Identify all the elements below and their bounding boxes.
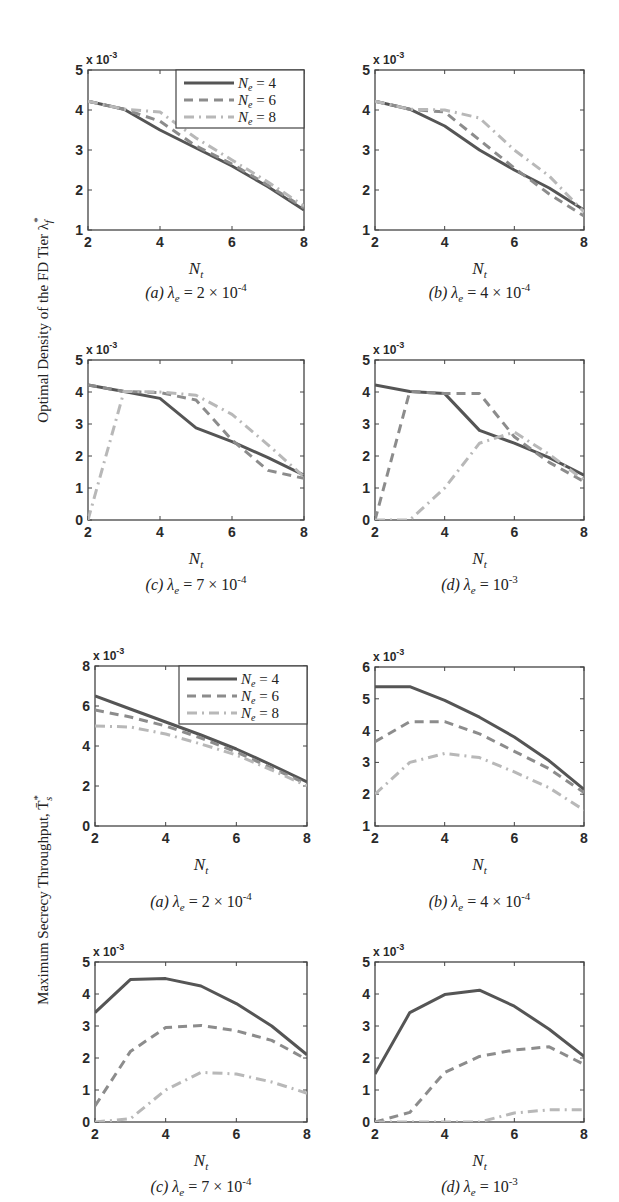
x-axis-label: Nt: [193, 855, 209, 876]
subplot-caption: (b) λe = 4 × 10-4: [429, 281, 531, 304]
x-tick-label: 6: [510, 1126, 518, 1142]
x-tick-label: 6: [228, 234, 236, 250]
y-tick-label: 2: [362, 1050, 370, 1066]
x-tick-label: 6: [510, 524, 518, 540]
x-axis-label: Nt: [188, 259, 204, 280]
y-tick-label: 3: [362, 754, 370, 770]
y-exponent-label: x 10-3: [373, 340, 404, 357]
y-tick-label: 4: [362, 384, 370, 400]
bottom-group-ylabel: Maximum Secrecy Throughput, T̄*s: [31, 795, 54, 1005]
y-tick-label: 2: [75, 182, 83, 198]
y-tick-label: 5: [362, 954, 370, 970]
subplot-bottom-c: 2468012345x 10-3Nt(c) λe = 7 × 10-4: [82, 942, 311, 1198]
x-tick-label: 4: [162, 830, 170, 846]
y-tick-label: 1: [362, 1082, 370, 1098]
y-exponent-label: x 10-3: [373, 647, 404, 664]
y-tick-label: 0: [362, 512, 370, 528]
y-tick-label: 3: [82, 1018, 90, 1034]
x-tick-label: 4: [441, 830, 449, 846]
x-tick-label: 8: [300, 524, 308, 540]
y-tick-label: 0: [362, 1114, 370, 1130]
x-axis-label: Nt: [471, 1151, 487, 1172]
x-tick-label: 6: [228, 524, 236, 540]
x-tick-label: 8: [580, 234, 588, 250]
x-tick-label: 8: [300, 234, 308, 250]
svg-text:Optimal Density of the FD Tier: Optimal Density of the FD Tier λ*f: [31, 217, 54, 422]
legend-label-ne4: Ne = 4: [237, 75, 276, 93]
x-axis-label: Nt: [188, 549, 204, 570]
y-exponent-label: x 10-3: [373, 942, 404, 959]
legend: Ne = 4Ne = 6Ne = 8: [176, 70, 304, 128]
subplot-caption: (c) λe = 7 × 10-4: [151, 1175, 252, 1198]
y-tick-label: 6: [82, 698, 90, 714]
x-tick-label: 4: [156, 524, 164, 540]
y-tick-label: 5: [75, 352, 83, 368]
y-tick-label: 5: [362, 691, 370, 707]
y-tick-label: 2: [362, 448, 370, 464]
svg-text:Maximum Secrecy Throughput, T̄: Maximum Secrecy Throughput, T̄*s: [31, 795, 54, 1005]
y-tick-label: 6: [362, 659, 370, 675]
subplot-caption: (a) λe = 2 × 10-4: [145, 281, 247, 304]
subplot-caption: (d) λe = 10-3: [441, 573, 518, 596]
x-tick-label: 2: [84, 524, 92, 540]
y-tick-label: 1: [362, 818, 370, 834]
x-tick-label: 6: [510, 830, 518, 846]
subplot-top-d: 2468012345x 10-3Nt(d) λe = 10-3: [362, 340, 588, 596]
top-group-ylabel: Optimal Density of the FD Tier λ*f: [31, 217, 54, 422]
subplot-top-a: 246812345x 10-3Ne = 4Ne = 6Ne = 8Nt(a) λ…: [75, 50, 308, 304]
y-tick-label: 4: [362, 102, 370, 118]
x-tick-label: 4: [441, 524, 449, 540]
y-tick-label: 3: [362, 416, 370, 432]
y-tick-label: 8: [82, 658, 90, 674]
y-tick-label: 3: [362, 142, 370, 158]
y-exponent-label: x 10-3: [93, 646, 124, 663]
y-tick-label: 1: [75, 222, 83, 238]
x-tick-label: 6: [232, 1126, 240, 1142]
x-axis-label: Nt: [471, 549, 487, 570]
y-tick-label: 5: [362, 352, 370, 368]
x-tick-label: 4: [441, 234, 449, 250]
y-tick-label: 1: [82, 1082, 90, 1098]
x-axis-label: Nt: [471, 259, 487, 280]
x-tick-label: 4: [441, 1126, 449, 1142]
legend-label-ne6: Ne = 6: [240, 688, 279, 706]
x-tick-label: 2: [371, 524, 379, 540]
x-tick-label: 8: [303, 1126, 311, 1142]
legend-label-ne8: Ne = 8: [240, 705, 279, 723]
y-tick-label: 1: [75, 480, 83, 496]
y-tick-label: 5: [362, 62, 370, 78]
subplot-top-b: 246812345x 10-3Nt(b) λe = 4 × 10-4: [362, 50, 588, 304]
y-tick-label: 4: [362, 986, 370, 1002]
axes-frame: [375, 360, 584, 520]
y-tick-label: 0: [75, 512, 83, 528]
x-tick-label: 8: [303, 830, 311, 846]
x-tick-label: 6: [510, 234, 518, 250]
x-tick-label: 8: [580, 830, 588, 846]
x-tick-label: 6: [232, 830, 240, 846]
figure-canvas: Optimal Density of the FD Tier λ*f Maxim…: [0, 0, 619, 1202]
y-exponent-label: x 10-3: [373, 50, 404, 67]
x-tick-label: 2: [371, 1126, 379, 1142]
x-tick-label: 8: [580, 1126, 588, 1142]
legend-label-ne4: Ne = 4: [240, 671, 279, 689]
y-tick-label: 4: [75, 102, 83, 118]
y-tick-label: 4: [362, 723, 370, 739]
y-exponent-label: x 10-3: [93, 942, 124, 959]
y-tick-label: 3: [75, 142, 83, 158]
x-tick-label: 2: [91, 830, 99, 846]
y-tick-label: 3: [362, 1018, 370, 1034]
y-exponent-label: x 10-3: [86, 50, 117, 67]
y-tick-label: 2: [82, 778, 90, 794]
x-axis-label: Nt: [193, 1151, 209, 1172]
x-axis-label: Nt: [471, 855, 487, 876]
subplot-bottom-a: 246802468x 10-3Ne = 4Ne = 6Ne = 8Nt(a) λ…: [82, 646, 311, 913]
y-tick-label: 4: [82, 738, 90, 754]
y-exponent-label: x 10-3: [86, 340, 117, 357]
y-tick-label: 4: [75, 384, 83, 400]
y-tick-label: 5: [75, 62, 83, 78]
y-tick-label: 2: [75, 448, 83, 464]
y-tick-label: 1: [362, 480, 370, 496]
y-tick-label: 3: [75, 416, 83, 432]
x-tick-label: 4: [162, 1126, 170, 1142]
y-tick-label: 0: [82, 1114, 90, 1130]
